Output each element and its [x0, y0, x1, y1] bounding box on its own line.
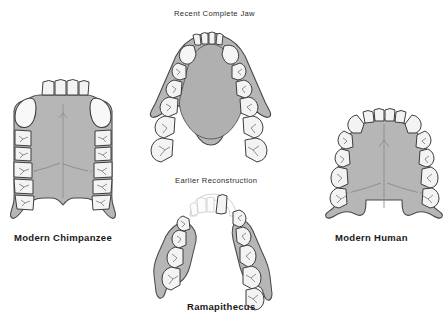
- dental-arcade-illustration: [0, 0, 445, 329]
- reconstructed-central-incisor: [216, 195, 227, 215]
- earlier-reconstruction-diagram: [154, 194, 272, 310]
- chimpanzee-left-cheek-teeth: [14, 130, 34, 210]
- caption-modern-human: Modern Human: [335, 232, 408, 243]
- caption-ramapithecus: Ramapithecus: [187, 301, 256, 312]
- chimpanzee-incisors: [42, 80, 89, 96]
- ghost-incisors: [190, 197, 214, 216]
- human-jaw-diagram: [325, 109, 442, 219]
- recent-jaw-incisors: [193, 32, 223, 45]
- chimpanzee-jaw-diagram: [10, 80, 115, 219]
- caption-modern-chimpanzee: Modern Chimpanzee: [14, 232, 112, 243]
- caption-earlier-reconstruction: Earlier Reconstruction: [175, 176, 257, 185]
- recent-complete-jaw-diagram: [150, 32, 270, 162]
- human-incisors: [363, 109, 406, 124]
- caption-recent-complete-jaw: Recent Complete Jaw: [174, 9, 255, 18]
- chimpanzee-right-cheek-teeth: [92, 130, 112, 210]
- figure-canvas: Modern Chimpanzee Modern Human Ramapithe…: [0, 0, 445, 329]
